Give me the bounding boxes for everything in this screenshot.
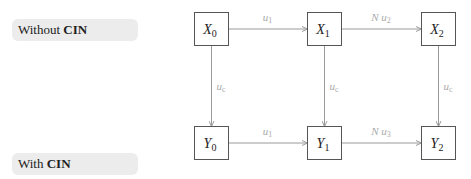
node-x0: X0 [195,13,229,46]
node-y1: Y1 [308,127,342,160]
edge-x0-x1: u1 [229,11,308,29]
edge-x2-y2: uc [439,46,454,127]
node-x1: X1 [308,13,342,46]
edge-y1-y2: N u3 [342,125,422,143]
node-y2: Y2 [422,127,456,160]
edge-label: u1 [263,11,273,25]
node-y0: Y0 [195,127,229,160]
edge-x1-x2: N u2 [342,11,422,29]
edge-y0-y1: u1 [229,125,308,143]
edge-x1-y1: uc [325,46,340,127]
edge-label: uc [444,80,454,94]
edge-label: uc [217,80,227,94]
edge-label: u1 [263,125,273,139]
edge-x0-y0: uc [212,46,227,127]
node-x2: X2 [422,13,456,46]
commutative-diagram: u1N u2u1N u3ucucuc X0X1X2Y0Y1Y2 [0,0,471,179]
edge-label: uc [330,80,340,94]
edge-label: N u3 [370,125,391,139]
edge-label: N u2 [370,11,391,25]
